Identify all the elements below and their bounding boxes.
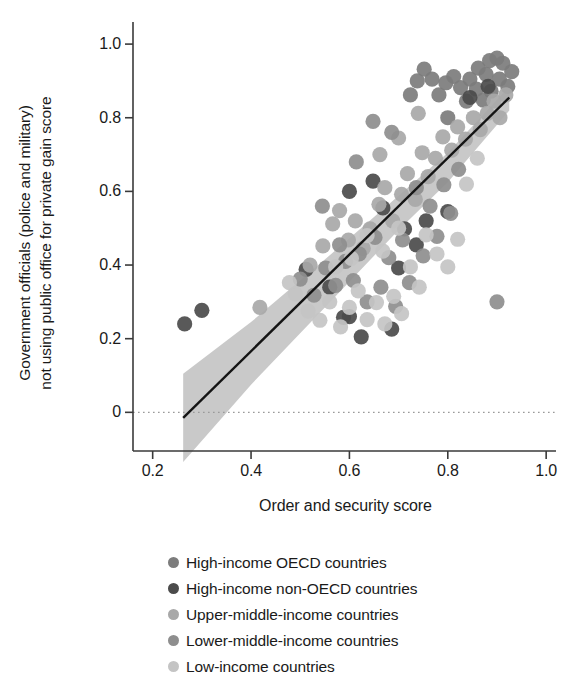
scatter-point (415, 145, 430, 160)
x-axis-label: Order and security score (133, 497, 558, 515)
legend-item-label: High-income OECD countries (186, 554, 387, 572)
x-axis-tick-label: 0.8 (423, 462, 473, 480)
scatter-point (462, 90, 477, 105)
legend: High-income OECD countriesHigh-income no… (168, 551, 417, 678)
scatter-point (252, 300, 267, 315)
scatter-point (504, 64, 519, 79)
scatter-point (365, 114, 380, 129)
legend-item-label: Lower-middle-income countries (186, 632, 398, 650)
plot-area (0, 0, 580, 500)
scatter-point (325, 216, 340, 231)
x-axis-tick-label: 1.0 (521, 462, 571, 480)
scatter-point (194, 303, 209, 318)
scatter-point (377, 316, 392, 331)
scatter-point (333, 319, 348, 334)
scatter-point (302, 257, 317, 272)
x-axis-tick-label: 0.2 (128, 462, 178, 480)
scatter-point (436, 177, 451, 192)
scatter-point (473, 122, 488, 137)
scatter-point (412, 280, 427, 295)
scatter-point (332, 203, 347, 218)
scatter-point (419, 227, 434, 242)
scatter-point (342, 300, 357, 315)
scatter-point (481, 79, 496, 94)
scatter-point (342, 184, 357, 199)
scatter-plot-figure: Government officials (police and militar… (0, 0, 580, 687)
scatter-point (322, 294, 337, 309)
x-axis-tick-label: 0.6 (324, 462, 374, 480)
regression-line (183, 97, 509, 417)
scatter-point (360, 312, 375, 327)
legend-item[interactable]: Low-income countries (168, 655, 417, 678)
scatter-point (394, 306, 409, 321)
scatter-point (312, 313, 327, 328)
scatter-point (411, 106, 426, 121)
scatter-point (371, 197, 386, 212)
legend-item[interactable]: Upper-middle-income countries (168, 603, 417, 626)
scatter-point (451, 162, 466, 177)
scatter-point (386, 289, 401, 304)
scatter-point (351, 283, 366, 298)
scatter-point (403, 259, 418, 274)
scatter-point (377, 180, 392, 195)
scatter-point (422, 199, 437, 214)
legend-marker-icon (168, 609, 179, 620)
scatter-point (354, 329, 369, 344)
legend-marker-icon (168, 583, 179, 594)
scatter-point (419, 213, 434, 228)
scatter-point (384, 125, 399, 140)
x-axis-tick-label: 0.4 (226, 462, 276, 480)
legend-item[interactable]: High-income non-OECD countries (168, 577, 417, 600)
scatter-point (372, 147, 387, 162)
legend-item[interactable]: Lower-middle-income countries (168, 629, 417, 652)
legend-item-label: Upper-middle-income countries (186, 606, 398, 624)
scatter-point (459, 176, 474, 191)
legend-item[interactable]: High-income OECD countries (168, 551, 417, 574)
legend-marker-icon (168, 635, 179, 646)
scatter-point (177, 316, 192, 331)
scatter-point (429, 246, 444, 261)
scatter-point (403, 87, 418, 102)
scatter-point (315, 199, 330, 214)
scatter-point (489, 294, 504, 309)
scatter-point (391, 221, 406, 236)
legend-marker-icon (168, 557, 179, 568)
legend-item-label: High-income non-OECD countries (186, 580, 417, 598)
scatter-point (443, 206, 458, 221)
scatter-point (282, 275, 297, 290)
scatter-point (373, 280, 388, 295)
scatter-point (375, 243, 390, 258)
scatter-point (435, 129, 450, 144)
scatter-point (315, 238, 330, 253)
scatter-point (328, 278, 343, 293)
legend-item-label: Low-income countries (186, 658, 335, 676)
scatter-point (431, 87, 446, 102)
scatter-point (410, 73, 425, 88)
scatter-point (332, 237, 347, 252)
scatter-point (470, 151, 485, 166)
scatter-point (400, 166, 415, 181)
scatter-point (369, 295, 384, 310)
scatter-point (349, 154, 364, 169)
scatter-point (450, 232, 465, 247)
scatter-point (440, 259, 455, 274)
scatter-point (416, 248, 431, 263)
scatter-point (348, 213, 363, 228)
legend-marker-icon (168, 661, 179, 672)
